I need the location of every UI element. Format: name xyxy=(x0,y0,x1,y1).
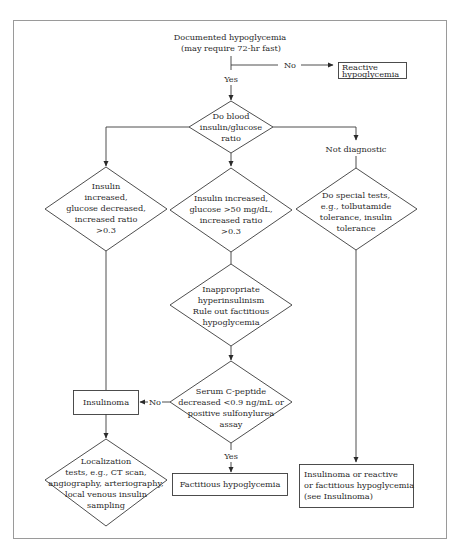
serum-line-3: positive sulfonylurea xyxy=(188,408,275,418)
serum-line-2: decreased <0.9 ng/mL or xyxy=(178,397,284,407)
insulinoma-label: Insulinoma xyxy=(83,397,129,407)
start-line-1: Documented hypoglycemia xyxy=(174,32,287,42)
inappropriate-line-4: hypoglycemia xyxy=(202,317,259,327)
left-line-2: increased, xyxy=(84,192,127,202)
arrow-to-not-diagnostic xyxy=(273,127,356,140)
label-no-top: No xyxy=(284,60,296,70)
ratio-line-1: Do blood xyxy=(212,111,249,121)
localization-line-2: tests, e.g., CT scan, xyxy=(65,467,146,477)
inappropriate-hyperinsulinism-diamond: Inappropriate hyperinsulinism Rule out f… xyxy=(170,264,292,346)
localization-line-1: Localization xyxy=(81,456,132,466)
center-line-1: Insulin increased, xyxy=(194,193,268,203)
special-tests-diamond: Do special tests, e.g., tolbutamide tole… xyxy=(296,168,417,250)
final-line-3: (see Insulinoma) xyxy=(304,491,373,501)
label-yes-serum: Yes xyxy=(223,451,238,461)
center-line-2: glucose >50 mg/dL, xyxy=(189,204,272,214)
insulin-increased-glucose-decreased-diamond: Insulin increased, glucose decreased, in… xyxy=(45,167,167,251)
right-line-2: e.g., tolbutamide xyxy=(321,201,392,211)
localization-line-5: sampling xyxy=(87,500,125,510)
start-line-2: (may require 72-hr fast) xyxy=(181,43,281,53)
serum-c-peptide-diamond: Serum C-peptide decreased <0.9 ng/mL or … xyxy=(170,361,292,443)
localization-line-4: local venous insulin xyxy=(65,489,148,499)
ratio-line-3: ratio xyxy=(221,133,241,143)
arrow-to-left xyxy=(106,127,189,166)
final-outcome-box: Insulinoma or reactive or factitious hyp… xyxy=(300,465,415,508)
insulin-glucose-ratio-diamond: Do blood insulin/glucose ratio xyxy=(189,101,273,153)
reactive-hypoglycemia-box: Reactive hypoglycemia xyxy=(339,62,407,79)
insulin-increased-glucose-over-50-diamond: Insulin increased, glucose >50 mg/dL, in… xyxy=(170,168,292,252)
factitious-label: Factitious hypoglycemia xyxy=(180,479,281,489)
serum-line-1: Serum C-peptide xyxy=(196,386,267,396)
ratio-line-2: insulin/glucose xyxy=(200,122,262,132)
start-node: Documented hypoglycemia (may require 72-… xyxy=(174,32,287,53)
final-line-1: Insulinoma or reactive xyxy=(304,469,398,479)
left-line-5: >0.3 xyxy=(96,225,116,235)
inappropriate-line-2: hyperinsulinism xyxy=(198,295,265,305)
localization-line-3: angiography, arteriography, xyxy=(48,478,163,488)
right-line-1: Do special tests, xyxy=(322,190,390,200)
reactive-line-2: hypoglycemia xyxy=(342,69,399,79)
inappropriate-line-1: Inappropriate xyxy=(202,284,260,294)
center-line-3: increased ratio xyxy=(200,215,263,225)
right-line-4: tolerance xyxy=(336,223,375,233)
label-not-diagnostic: Not diagnostic xyxy=(326,144,387,154)
label-no-serum: No xyxy=(149,397,161,407)
localization-tests-diamond: Localization tests, e.g., CT scan, angio… xyxy=(45,439,167,526)
factitious-hypoglycemia-box: Factitious hypoglycemia xyxy=(173,474,288,496)
serum-line-4: assay xyxy=(220,419,243,429)
right-line-3: tolerance, insulin xyxy=(320,212,393,222)
center-line-4: >0.3 xyxy=(221,226,241,236)
left-line-4: increased ratio xyxy=(75,214,138,224)
inappropriate-line-3: Rule out factitious xyxy=(193,306,269,316)
label-yes-top: Yes xyxy=(223,74,238,84)
flowchart: Documented hypoglycemia (may require 72-… xyxy=(0,0,464,551)
final-line-2: or factitious hypoglycemia xyxy=(304,480,414,490)
insulinoma-box: Insulinoma xyxy=(74,391,139,415)
left-line-3: glucose decreased, xyxy=(66,203,146,213)
left-line-1: Insulin xyxy=(92,181,121,191)
